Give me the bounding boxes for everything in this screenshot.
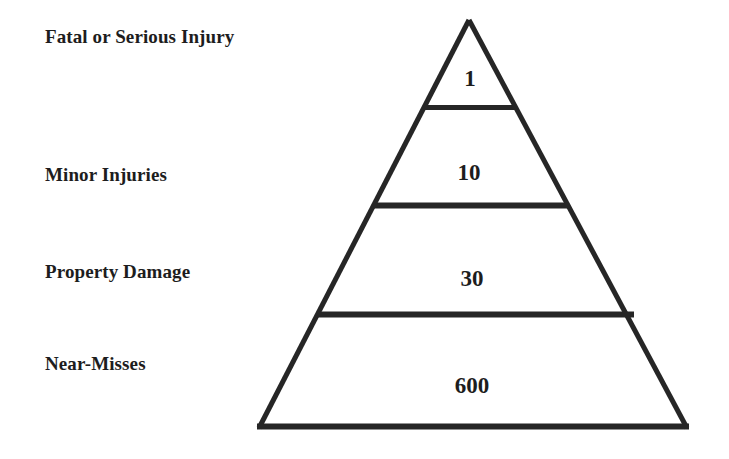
figure-canvas: Fatal or Serious Injury 1 Minor Injuries… (0, 0, 729, 459)
tier-value-property-damage: 30 (461, 267, 484, 290)
tier-value-near-misses: 600 (455, 374, 490, 397)
pyramid-diagram (0, 0, 729, 459)
pyramid-left-edge (259, 20, 469, 428)
tier-label-property-damage: Property Damage (45, 262, 190, 281)
tier-label-near-misses: Near-Misses (45, 354, 146, 373)
pyramid-right-edge (469, 20, 687, 428)
tier-label-minor-injuries: Minor Injuries (45, 165, 167, 184)
tier-label-fatal-or-serious-injury: Fatal or Serious Injury (45, 27, 234, 46)
tier-value-fatal-or-serious-injury: 1 (464, 67, 476, 90)
tier-value-minor-injuries: 10 (458, 161, 481, 184)
